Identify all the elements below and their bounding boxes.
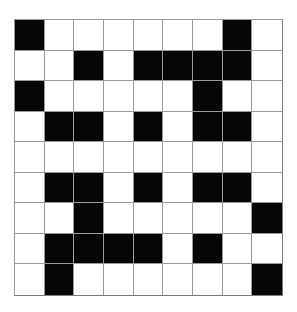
grid-cell-r5-c7[interactable] <box>193 142 223 173</box>
binary-cell-grid[interactable] <box>14 19 283 296</box>
grid-cell-r6-c5[interactable] <box>134 173 164 204</box>
grid-cell-r8-c4[interactable] <box>104 234 134 265</box>
grid-cell-r5-c3[interactable] <box>74 142 104 173</box>
grid-cell-r4-c2[interactable] <box>45 112 75 143</box>
grid-cell-r8-c1[interactable] <box>15 234 45 265</box>
grid-cell-r8-c8[interactable] <box>223 234 253 265</box>
grid-cell-r4-c5[interactable] <box>134 112 164 143</box>
grid-cell-r9-c9[interactable] <box>252 264 282 295</box>
grid-cell-r3-c4[interactable] <box>104 81 134 112</box>
grid-cell-r2-c2[interactable] <box>45 51 75 82</box>
grid-cell-r7-c5[interactable] <box>134 203 164 234</box>
grid-cell-r3-c3[interactable] <box>74 81 104 112</box>
grid-cell-r5-c9[interactable] <box>252 142 282 173</box>
grid-cell-r6-c3[interactable] <box>74 173 104 204</box>
grid-cell-r8-c2[interactable] <box>45 234 75 265</box>
grid-cell-r4-c3[interactable] <box>74 112 104 143</box>
grid-cell-r4-c1[interactable] <box>15 112 45 143</box>
grid-cell-r3-c2[interactable] <box>45 81 75 112</box>
grid-cell-r9-c4[interactable] <box>104 264 134 295</box>
grid-cell-r7-c7[interactable] <box>193 203 223 234</box>
grid-cell-r1-c6[interactable] <box>163 20 193 51</box>
grid-cell-r3-c7[interactable] <box>193 81 223 112</box>
grid-cell-r7-c9[interactable] <box>252 203 282 234</box>
grid-cell-r2-c5[interactable] <box>134 51 164 82</box>
grid-cell-r5-c6[interactable] <box>163 142 193 173</box>
grid-cell-r7-c2[interactable] <box>45 203 75 234</box>
grid-cell-r1-c5[interactable] <box>134 20 164 51</box>
grid-cell-r1-c4[interactable] <box>104 20 134 51</box>
grid-cell-r9-c7[interactable] <box>193 264 223 295</box>
grid-cell-r2-c3[interactable] <box>74 51 104 82</box>
grid-cell-r1-c7[interactable] <box>193 20 223 51</box>
grid-cell-r8-c7[interactable] <box>193 234 223 265</box>
grid-cell-r2-c8[interactable] <box>223 51 253 82</box>
grid-cell-r4-c9[interactable] <box>252 112 282 143</box>
grid-cell-r9-c1[interactable] <box>15 264 45 295</box>
grid-cell-r6-c9[interactable] <box>252 173 282 204</box>
puzzle-root <box>0 0 297 312</box>
grid-cell-r5-c5[interactable] <box>134 142 164 173</box>
grid-cell-r8-c5[interactable] <box>134 234 164 265</box>
grid-cell-r2-c9[interactable] <box>252 51 282 82</box>
grid-cell-r4-c4[interactable] <box>104 112 134 143</box>
grid-cell-r2-c6[interactable] <box>163 51 193 82</box>
grid-cell-r2-c4[interactable] <box>104 51 134 82</box>
grid-cell-r3-c5[interactable] <box>134 81 164 112</box>
grid-cell-r8-c3[interactable] <box>74 234 104 265</box>
grid-cell-r3-c6[interactable] <box>163 81 193 112</box>
grid-cell-r1-c2[interactable] <box>45 20 75 51</box>
grid-cell-r9-c8[interactable] <box>223 264 253 295</box>
grid-cell-r4-c6[interactable] <box>163 112 193 143</box>
grid-cell-r8-c6[interactable] <box>163 234 193 265</box>
grid-cell-r7-c4[interactable] <box>104 203 134 234</box>
grid-cell-r9-c3[interactable] <box>74 264 104 295</box>
grid-cell-r1-c3[interactable] <box>74 20 104 51</box>
grid-cell-r3-c1[interactable] <box>15 81 45 112</box>
grid-cell-r6-c8[interactable] <box>223 173 253 204</box>
grid-cell-r5-c8[interactable] <box>223 142 253 173</box>
grid-cell-r2-c1[interactable] <box>15 51 45 82</box>
grid-cell-r5-c1[interactable] <box>15 142 45 173</box>
grid-cell-r7-c8[interactable] <box>223 203 253 234</box>
grid-cell-r1-c1[interactable] <box>15 20 45 51</box>
grid-cell-r1-c9[interactable] <box>252 20 282 51</box>
grid-cell-r3-c8[interactable] <box>223 81 253 112</box>
grid-cell-r9-c2[interactable] <box>45 264 75 295</box>
grid-cell-r7-c6[interactable] <box>163 203 193 234</box>
grid-cell-r4-c8[interactable] <box>223 112 253 143</box>
grid-cell-r9-c5[interactable] <box>134 264 164 295</box>
grid-cell-r6-c2[interactable] <box>45 173 75 204</box>
grid-cell-r3-c9[interactable] <box>252 81 282 112</box>
grid-cell-r1-c8[interactable] <box>223 20 253 51</box>
grid-cell-r6-c6[interactable] <box>163 173 193 204</box>
grid-cell-r6-c7[interactable] <box>193 173 223 204</box>
grid-cell-r6-c1[interactable] <box>15 173 45 204</box>
grid-cell-r8-c9[interactable] <box>252 234 282 265</box>
grid-cell-r7-c3[interactable] <box>74 203 104 234</box>
grid-cell-r5-c2[interactable] <box>45 142 75 173</box>
grid-cell-r5-c4[interactable] <box>104 142 134 173</box>
grid-cell-r2-c7[interactable] <box>193 51 223 82</box>
grid-cell-r9-c6[interactable] <box>163 264 193 295</box>
grid-cell-r7-c1[interactable] <box>15 203 45 234</box>
grid-cell-r6-c4[interactable] <box>104 173 134 204</box>
grid-cell-r4-c7[interactable] <box>193 112 223 143</box>
